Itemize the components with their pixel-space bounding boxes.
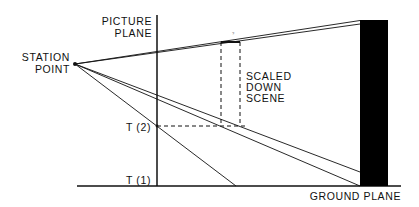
picture-plane-label-2: PLANE [115,27,152,39]
sight-line-bottom-2 [75,64,360,186]
station-point-label-2: POINT [35,63,70,75]
sight-line-ground [75,64,236,186]
tiny-mark: ? [232,31,235,36]
picture-plane-label-1: PICTURE [102,15,152,27]
t2-dot [156,125,159,128]
t1-label: T (1) [126,174,151,186]
scaled-box-top-mark [221,41,240,43]
sight-line-bottom-1 [75,64,360,172]
station-point-label-1: STATION [22,51,70,63]
station-point-dot [73,62,77,66]
building-block [360,20,388,186]
t2-label: T (2) [126,121,151,133]
ground-plane-label: GROUND PLANE [310,190,401,202]
scaled-scene-label-3: SCENE [246,92,285,104]
perspective-diagram: PICTURE PLANE STATION POINT SCALED DOWN … [0,0,419,207]
